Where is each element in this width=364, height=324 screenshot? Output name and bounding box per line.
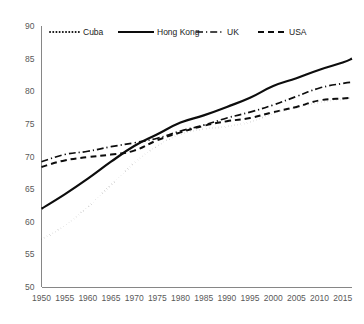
- y-axis-tick-labels: 505560657075808590: [25, 21, 35, 292]
- y-tick-label: 85: [25, 54, 35, 64]
- line-chart: 505560657075808590 195019551960196519701…: [0, 0, 364, 324]
- x-tick-label: 1965: [102, 293, 121, 303]
- chart-legend: CubaHong KongUKUSA: [50, 27, 307, 37]
- chart-canvas: 505560657075808590 195019551960196519701…: [0, 0, 364, 324]
- x-tick-label: 2015: [333, 293, 352, 303]
- y-tick-label: 60: [25, 217, 35, 227]
- x-tick-label: 1975: [148, 293, 167, 303]
- x-tick-label: 1995: [241, 293, 260, 303]
- x-tick-label: 1970: [125, 293, 144, 303]
- x-tick-label: 1985: [194, 293, 213, 303]
- x-tick-label: 2010: [310, 293, 329, 303]
- x-tick-label: 2005: [287, 293, 306, 303]
- series-line-uk: [42, 82, 353, 162]
- y-tick-label: 80: [25, 86, 35, 96]
- x-tick-label: 1955: [55, 293, 74, 303]
- legend-label-usa: USA: [289, 27, 307, 37]
- y-tick-label: 70: [25, 152, 35, 162]
- x-tick-label: 1950: [32, 293, 51, 303]
- series-lines: [42, 59, 353, 240]
- axes: [42, 26, 353, 287]
- x-tick-label: 1990: [217, 293, 236, 303]
- y-tick-label: 90: [25, 21, 35, 31]
- y-tick-label: 75: [25, 119, 35, 129]
- series-line-hong-kong: [42, 59, 353, 209]
- legend-label-hong-kong: Hong Kong: [157, 27, 200, 37]
- legend-label-uk: UK: [227, 27, 239, 37]
- series-line-cuba: [42, 98, 353, 240]
- y-tick-label: 55: [25, 249, 35, 259]
- x-axis-tick-labels: 1950195519601965197019751980198519901995…: [32, 293, 352, 303]
- x-tick-label: 1980: [171, 293, 190, 303]
- x-tick-label: 1960: [78, 293, 97, 303]
- y-tick-label: 65: [25, 184, 35, 194]
- series-line-usa: [42, 98, 353, 167]
- y-tick-label: 50: [25, 282, 35, 292]
- x-tick-label: 2000: [264, 293, 283, 303]
- legend-label-cuba: Cuba: [83, 27, 104, 37]
